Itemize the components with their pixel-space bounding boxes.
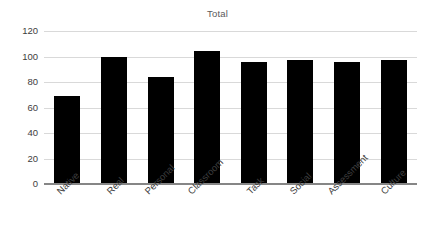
bar[interactable] [381, 60, 407, 184]
bar[interactable] [54, 96, 80, 184]
x-axis-tick-label: Native [44, 185, 91, 203]
bar[interactable] [101, 57, 127, 185]
x-axis-tick-label: Personal [137, 185, 184, 203]
gridline [44, 82, 417, 83]
x-axis: NativeRealPersonalClassroomTaskSocialAss… [44, 185, 417, 243]
chart-title: Total [0, 8, 435, 20]
gridline [44, 57, 417, 58]
y-axis-tick-label: 0 [4, 179, 38, 189]
y-axis-tick-label: 40 [4, 128, 38, 138]
x-axis-tick-label: Assessment [324, 185, 371, 203]
x-axis-tick-label: Social [277, 185, 324, 203]
y-axis-tick-label: 80 [4, 77, 38, 87]
y-axis-tick-label: 120 [4, 26, 38, 36]
gridline [44, 31, 417, 32]
bar[interactable] [241, 62, 267, 184]
gridline [44, 133, 417, 134]
x-axis-tick-label: Task [231, 185, 278, 203]
y-axis-tick-label: 60 [4, 103, 38, 113]
x-axis-tick-label: Real [91, 185, 138, 203]
x-axis-tick-label: Classroom [184, 185, 231, 203]
bar[interactable] [287, 60, 313, 184]
x-axis-tick-label: Culture [370, 185, 417, 203]
y-axis-tick-label: 100 [4, 52, 38, 62]
bar-chart: Total 020406080100120 NativeRealPersonal… [0, 0, 435, 243]
y-axis-tick-label: 20 [4, 154, 38, 164]
y-axis: 020406080100120 [0, 31, 38, 184]
gridline [44, 108, 417, 109]
